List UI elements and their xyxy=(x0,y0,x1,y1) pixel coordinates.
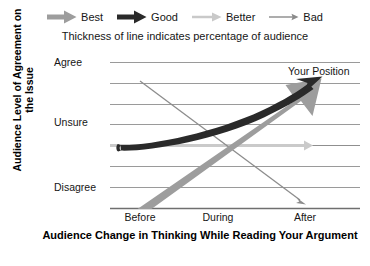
plot-area xyxy=(0,0,370,266)
chart-figure: Best Good Better xyxy=(0,0,370,266)
